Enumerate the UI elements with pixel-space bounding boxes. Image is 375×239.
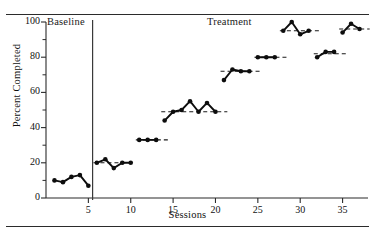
y-axis-tick-label: 60	[14, 85, 40, 96]
data-point-marker	[272, 55, 277, 60]
x-axis-tick-label: 15	[160, 204, 186, 215]
y-axis-tick-label: 80	[14, 50, 40, 61]
data-point-marker	[264, 55, 269, 60]
data-point-marker	[205, 101, 210, 106]
data-point-marker	[289, 20, 294, 25]
data-point-marker	[281, 29, 286, 34]
data-point-marker	[128, 161, 133, 166]
data-point-marker	[247, 69, 252, 74]
data-point-marker	[315, 55, 320, 60]
data-point-marker	[137, 138, 142, 143]
data-point-marker	[306, 29, 311, 34]
x-axis-tick-label: 5	[75, 204, 101, 215]
data-line	[283, 22, 308, 34]
data-point-marker	[323, 50, 328, 55]
data-point-marker	[154, 138, 159, 143]
y-axis-tick-label: 100	[14, 15, 40, 26]
chart-plot-area	[0, 0, 375, 239]
data-point-marker	[162, 118, 167, 123]
data-point-marker	[179, 108, 184, 113]
data-point-marker	[145, 138, 150, 143]
data-point-marker	[349, 21, 354, 26]
data-point-marker	[213, 109, 218, 114]
data-point-marker	[103, 157, 108, 162]
data-point-marker	[340, 30, 345, 35]
data-point-marker	[239, 69, 244, 74]
data-point-marker	[171, 109, 176, 114]
data-point-marker	[222, 78, 227, 83]
x-axis-tick-label: 35	[330, 204, 356, 215]
data-point-marker	[357, 27, 362, 32]
data-point-marker	[298, 32, 303, 37]
x-axis-tick-label: 10	[118, 204, 144, 215]
y-axis-tick-label: 0	[14, 191, 40, 202]
data-point-marker	[256, 55, 261, 60]
x-axis-tick-label: 30	[287, 204, 313, 215]
data-point-marker	[86, 183, 91, 188]
data-point-marker	[196, 109, 201, 114]
y-axis-tick-label: 40	[14, 121, 40, 132]
figure-container: Baseline Treatment Percent Completed Ses…	[0, 0, 375, 239]
data-point-marker	[61, 180, 66, 185]
data-series-group	[52, 20, 362, 188]
x-axis-tick-label: 25	[245, 204, 271, 215]
criterion-lines-group	[93, 29, 369, 163]
data-point-marker	[111, 166, 116, 171]
data-point-marker	[230, 67, 235, 72]
data-point-marker	[69, 175, 74, 180]
data-point-marker	[78, 173, 83, 178]
data-point-marker	[188, 99, 193, 104]
data-point-marker	[52, 178, 57, 183]
x-axis-tick-label: 20	[202, 204, 228, 215]
data-point-marker	[332, 50, 337, 55]
y-axis-tick-label: 20	[14, 156, 40, 167]
data-point-marker	[120, 161, 125, 166]
data-point-marker	[95, 161, 100, 166]
